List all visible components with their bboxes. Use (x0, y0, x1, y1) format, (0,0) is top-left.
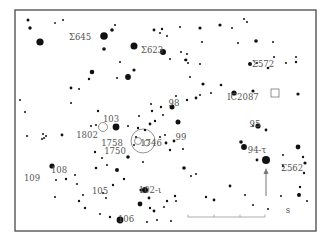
star-dot (142, 161, 144, 163)
star-dot (78, 88, 80, 90)
star-dot (45, 135, 47, 137)
star-dot (170, 220, 172, 222)
star-dot (156, 219, 158, 221)
star-dot (43, 137, 45, 139)
star-dot (273, 56, 275, 58)
star-dot (303, 161, 306, 164)
star-dot (26, 135, 28, 137)
star-dot (239, 140, 243, 144)
label-star-105: 105 (92, 186, 108, 196)
star-dot (138, 202, 143, 207)
star-dot (84, 207, 86, 209)
star-dot (28, 26, 31, 29)
star-dot (116, 77, 118, 79)
star-dot (302, 156, 304, 158)
star-dot (106, 164, 108, 166)
star-dot (182, 166, 186, 170)
star-dot (186, 99, 188, 101)
target-arrow (264, 168, 269, 196)
star-dot (184, 59, 186, 61)
star-dot (137, 127, 139, 129)
star-dot (150, 103, 152, 105)
star-dot (237, 42, 239, 44)
star-dot (169, 58, 171, 60)
star-dot (54, 22, 56, 24)
label-sigma-572: Σ572 (252, 59, 274, 69)
star-chart: Σ645Σ623Σ572IC20879810395180299175817469… (0, 0, 326, 244)
star-dot (42, 133, 44, 135)
star-dot (201, 82, 204, 85)
scale-bar (188, 215, 265, 218)
star-dot (201, 41, 203, 43)
star-dot (241, 144, 247, 150)
star-dot (252, 204, 254, 206)
star-dot (95, 167, 98, 170)
star-dot (126, 155, 130, 159)
star-dot (127, 125, 129, 127)
label-star-103: 103 (103, 114, 119, 124)
star-dot (148, 197, 151, 200)
star-dot (210, 92, 212, 94)
star-dot (112, 184, 114, 186)
star-dot (297, 193, 301, 197)
star-dot (175, 200, 177, 202)
star-dot (24, 111, 26, 113)
star-dot (186, 53, 188, 55)
star-dot (109, 216, 111, 218)
star-dot (265, 129, 268, 132)
star-field (19, 18, 308, 223)
star-dot (231, 27, 233, 29)
star-dot (218, 23, 221, 26)
star-dot (159, 32, 161, 34)
star-dot (176, 120, 181, 125)
star-dot (220, 84, 223, 87)
label-sigma-623: Σ623 (141, 45, 163, 55)
star-dot (138, 115, 140, 117)
star-dot (114, 24, 116, 26)
star-dot (306, 200, 308, 202)
label-ic2087: IC2087 (227, 92, 259, 102)
star-dot (166, 35, 168, 37)
star-dot (119, 61, 121, 63)
star-dot (296, 92, 299, 95)
star-dot (74, 174, 76, 176)
star-dot (70, 87, 73, 90)
star-dot (78, 200, 80, 202)
star-dot (285, 62, 287, 64)
star-dot (100, 32, 108, 40)
star-dot (190, 175, 192, 177)
star-dot (76, 183, 78, 185)
chart-frame (15, 10, 316, 231)
label-sigma-562: Σ562 (281, 163, 303, 173)
star-dot (105, 197, 107, 199)
star-dot (254, 39, 258, 43)
label-star-98: 98 (169, 98, 180, 108)
label-star-108: 108 (51, 165, 67, 175)
label-star-99: 99 (176, 132, 187, 142)
star-dot (102, 47, 106, 51)
star-dot (295, 56, 297, 58)
star-dot (180, 51, 182, 53)
star-dot (149, 123, 152, 126)
star-dot (256, 159, 259, 162)
star-dot (154, 120, 156, 122)
star-dot (101, 157, 103, 159)
star-dot (97, 110, 99, 112)
star-dot (153, 210, 156, 213)
label-star-94-tau: 94-τ (248, 145, 267, 155)
star-dot (55, 179, 57, 181)
star-dot (62, 19, 64, 21)
star-dot (164, 134, 166, 136)
star-dot (27, 19, 30, 22)
star-dot (303, 172, 305, 174)
star-dot (146, 221, 148, 223)
star-dot (123, 178, 125, 180)
star-dot (162, 114, 164, 116)
star-dot (161, 28, 163, 30)
star-dot (189, 76, 191, 78)
label-star-102-iota: 102-ι (139, 185, 161, 195)
star-dot (267, 208, 269, 210)
label-ngc-1746: 1746 (140, 138, 162, 148)
star-dot (135, 136, 137, 138)
star-dot (262, 156, 270, 164)
